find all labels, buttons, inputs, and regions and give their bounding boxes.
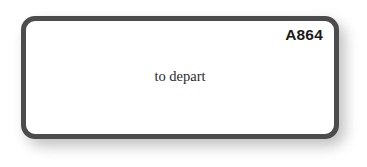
node-id-label: A864 [285,27,323,43]
diagram-canvas: A864 to depart [0,0,367,167]
node-body-text: to depart [26,69,334,84]
node-box-a864[interactable]: A864 to depart [21,16,339,139]
